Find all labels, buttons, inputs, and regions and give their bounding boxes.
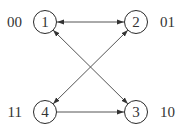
code-label-node-4: 11 — [8, 104, 22, 120]
code-label-node-3: 10 — [160, 104, 175, 120]
node-2: 2 — [125, 11, 148, 34]
code-label-node-2: 01 — [160, 14, 175, 30]
node-4: 4 — [34, 101, 57, 124]
node-1: 1 — [34, 11, 57, 34]
node-3-label: 3 — [132, 104, 140, 120]
node-1-label: 1 — [41, 14, 49, 30]
node-3: 3 — [125, 101, 148, 124]
code-label-node-1: 00 — [7, 14, 22, 30]
state-diagram: 1 2 3 4 00 01 10 11 — [0, 0, 185, 133]
node-2-label: 2 — [132, 14, 140, 30]
node-4-label: 4 — [41, 104, 49, 120]
